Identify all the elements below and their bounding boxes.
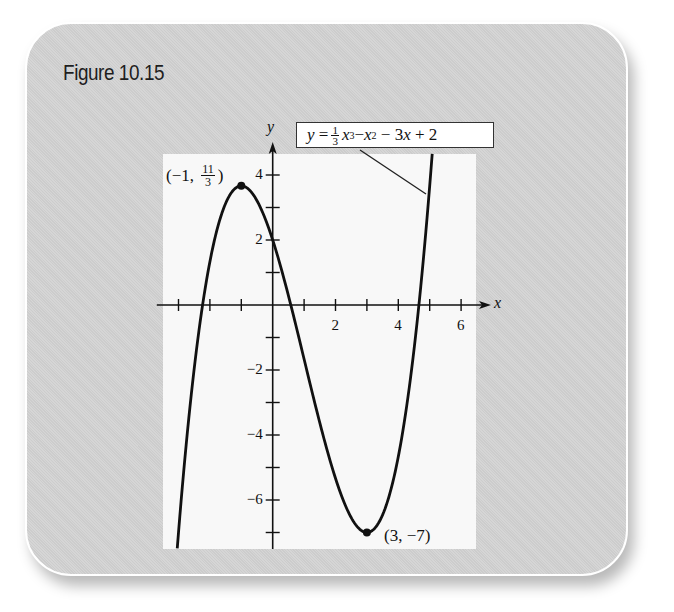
y-tick-label: −2 bbox=[247, 361, 263, 378]
x-axis-label: x bbox=[494, 294, 501, 312]
eq-frac-den: 3 bbox=[332, 136, 338, 146]
eq-lhs: y bbox=[307, 125, 315, 145]
max-y-fraction: 11 3 bbox=[201, 163, 215, 188]
eq-const: 2 bbox=[429, 125, 438, 145]
y-axis-label: y bbox=[267, 118, 274, 136]
eq-equals: = bbox=[319, 125, 329, 145]
paren: ) bbox=[218, 166, 224, 186]
eq-exp2: 2 bbox=[372, 130, 377, 141]
y-tick-label: −6 bbox=[247, 491, 263, 508]
extremum-dot bbox=[237, 182, 245, 190]
frac-den: 3 bbox=[205, 176, 211, 188]
y-tick-label: 2 bbox=[255, 231, 263, 248]
max-x: −1, bbox=[172, 166, 194, 186]
y-tick-label: −4 bbox=[247, 426, 263, 443]
axes bbox=[157, 142, 491, 549]
function-curve bbox=[177, 154, 432, 549]
x-tick-label: 2 bbox=[332, 317, 340, 334]
cubic-function-graph bbox=[0, 0, 674, 612]
x-tick-label: 6 bbox=[457, 317, 465, 334]
eq-op: + bbox=[415, 125, 425, 145]
min-point-label: (3, −7) bbox=[384, 526, 430, 546]
eq-x: x bbox=[342, 125, 350, 145]
eq-frac-num: 1 bbox=[331, 125, 339, 136]
eq-fraction: 1 3 bbox=[331, 125, 339, 146]
max-point-label: ( −1, 11 3 ) bbox=[166, 163, 224, 188]
x-tick-label: 4 bbox=[394, 317, 402, 334]
eq-x2: x bbox=[364, 125, 372, 145]
cubic-curve bbox=[177, 154, 432, 549]
y-tick-label: 4 bbox=[255, 166, 263, 183]
equation-label: y = 1 3 x3 − x2 − 3x + 2 bbox=[296, 122, 494, 148]
eq-op: − bbox=[381, 125, 391, 145]
extremum-dot bbox=[363, 529, 371, 537]
eq-op: − bbox=[354, 125, 364, 145]
leader-line bbox=[360, 150, 426, 194]
eq-3x: 3x bbox=[395, 125, 411, 145]
